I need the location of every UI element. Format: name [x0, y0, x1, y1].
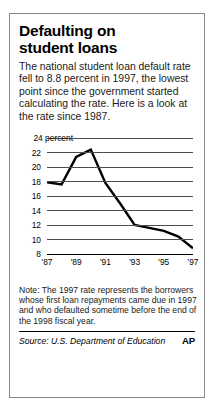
ap-news-graphic: Defaulting on student loans The national…: [9, 13, 205, 398]
y-axis-tick-label: 18: [13, 177, 41, 187]
x-axis-tick-label: '93: [125, 257, 145, 267]
intro-paragraph: The national student loan default rate f…: [19, 61, 199, 123]
line-chart: 24 percent222018161412108'87'89'91'93'95…: [10, 129, 204, 281]
x-axis-line: [47, 254, 193, 255]
page-title: Defaulting on student loans: [19, 22, 191, 56]
y-axis-tick-label: 10: [13, 235, 41, 245]
source-label: Source: U.S. Department of Education: [19, 336, 165, 346]
x-axis-tick-label: '97: [183, 257, 203, 267]
ap-logo: AP: [182, 335, 195, 346]
gridline: [47, 196, 193, 197]
headline-line-2: student loans: [19, 39, 191, 56]
chart-note: Note: The 1997 rate represents the borro…: [19, 285, 199, 326]
x-axis-tick-label: '91: [95, 257, 115, 267]
y-axis-tick-label: 12: [13, 220, 41, 230]
x-axis-tick-label: '89: [66, 257, 86, 267]
gridline: [47, 225, 193, 226]
gridline: [47, 152, 193, 153]
x-axis-tick-label: '95: [154, 257, 174, 267]
gridline: [47, 167, 193, 168]
y-axis-tick-label: 20: [13, 162, 41, 172]
y-axis-tick-label: 24 percent: [13, 133, 73, 143]
x-axis-tick-label: '87: [37, 257, 57, 267]
footer-divider: [19, 331, 195, 332]
y-axis-tick-label: 22: [13, 148, 41, 158]
gridline: [47, 239, 193, 240]
headline-line-1: Defaulting on: [19, 22, 115, 39]
gridline: [47, 181, 193, 182]
footer: Source: U.S. Department of Education AP: [19, 335, 195, 346]
y-axis-tick-label: 16: [13, 191, 41, 201]
y-axis-tick-label: 14: [13, 206, 41, 216]
chart-plot-area: 24 percent222018161412108'87'89'91'93'95…: [47, 138, 193, 254]
gridline: [47, 210, 193, 211]
